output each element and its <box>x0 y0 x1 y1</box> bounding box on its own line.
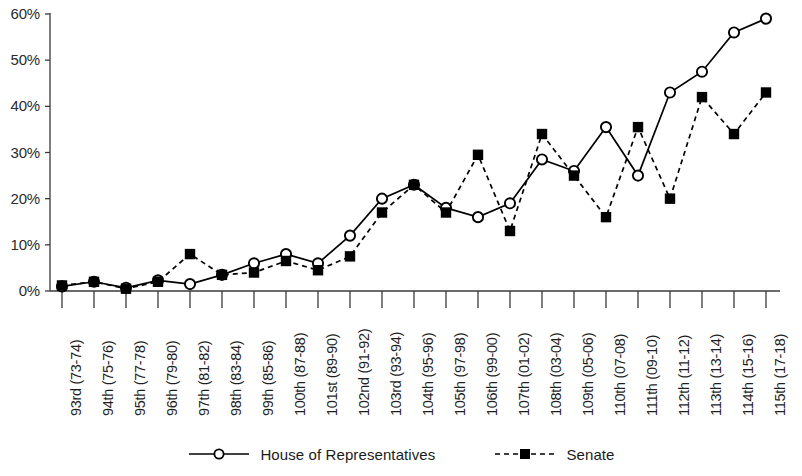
data-point-marker <box>217 270 227 280</box>
data-point-marker <box>601 122 611 132</box>
x-axis-tick-label: 99th (85-86) <box>260 341 276 416</box>
data-point-marker <box>281 256 291 266</box>
y-axis-tick-label: 20% <box>0 191 40 206</box>
x-axis-tick-label: 104th (95-96) <box>420 333 436 416</box>
data-point-marker <box>505 198 515 208</box>
data-point-marker <box>633 122 643 132</box>
y-axis-tick-label: 50% <box>0 52 40 67</box>
data-point-marker <box>249 258 259 268</box>
x-axis-tick-label: 103rd (93-94) <box>388 332 404 416</box>
x-axis-tick-label: 112th (11-12) <box>676 335 692 416</box>
x-axis-tick-label: 108th (03-04) <box>548 333 564 416</box>
data-point-marker <box>665 87 675 97</box>
data-point-marker <box>505 226 515 236</box>
legend-item-house: House of Representatives <box>187 446 435 463</box>
x-axis-tick-label: 115th (17-18) <box>772 334 788 416</box>
series-line <box>62 19 766 288</box>
x-axis-tick-label: 114th (15-16) <box>740 334 756 416</box>
data-point-marker <box>185 249 195 259</box>
data-point-marker <box>249 267 259 277</box>
data-point-marker <box>569 170 579 180</box>
data-point-marker <box>345 231 355 241</box>
data-point-marker <box>121 283 131 293</box>
x-axis-tick-label: 93rd (73-74) <box>68 340 84 416</box>
legend-item-senate: Senate <box>493 446 614 463</box>
data-point-marker <box>665 193 675 203</box>
x-axis-ticks <box>62 291 766 308</box>
data-point-marker <box>89 277 99 287</box>
x-axis-tick-label: 110th (07-08) <box>612 334 628 416</box>
y-axis-tick-label: 60% <box>0 6 40 21</box>
open-circle-solid-line-icon <box>187 446 251 462</box>
series-house <box>57 14 771 293</box>
y-axis-tick-label: 10% <box>0 237 40 252</box>
data-point-marker <box>729 129 739 139</box>
data-point-marker <box>473 212 483 222</box>
data-point-marker <box>537 154 547 164</box>
data-point-marker <box>537 129 547 139</box>
x-axis-tick-label: 98th (83-84) <box>228 341 244 416</box>
data-point-marker <box>601 212 611 222</box>
data-point-marker <box>697 67 707 77</box>
x-axis-tick-label: 111th (09-10) <box>644 335 660 416</box>
data-point-marker <box>185 279 195 289</box>
x-axis-tick-label: 107th (01-02) <box>516 333 532 416</box>
x-axis-tick-label: 106th (99-00) <box>484 333 500 416</box>
data-point-marker <box>761 14 771 24</box>
y-axis-tick-label: 40% <box>0 98 40 113</box>
x-axis-tick-label: 100th (87-88) <box>292 333 308 416</box>
y-axis-tick-label: 30% <box>0 145 40 160</box>
filled-square-dashed-line-icon <box>493 446 557 462</box>
data-point-marker <box>409 180 419 190</box>
data-point-marker <box>377 207 387 217</box>
y-axis-ticks <box>45 14 50 291</box>
data-point-marker <box>473 150 483 160</box>
chart-legend: House of Representatives Senate <box>0 438 802 470</box>
x-axis-tick-label: 97th (81-82) <box>196 341 212 416</box>
data-point-marker <box>345 251 355 261</box>
data-point-marker <box>441 207 451 217</box>
chart-container: 60%50%40%30%20%10%0% 93rd (73-74)94th (7… <box>0 0 802 476</box>
y-axis-tick-label: 0% <box>0 283 40 298</box>
x-axis-tick-label: 105th (97-98) <box>452 333 468 416</box>
data-point-marker <box>729 27 739 37</box>
chart-axes <box>50 13 780 291</box>
data-point-marker <box>761 87 771 97</box>
x-axis-tick-label: 96th (79-80) <box>164 341 180 416</box>
data-point-marker <box>633 170 643 180</box>
data-point-marker <box>377 194 387 204</box>
x-axis-tick-label: 94th (75-76) <box>100 341 116 416</box>
data-point-marker <box>57 280 67 290</box>
data-point-marker <box>153 277 163 287</box>
x-axis-tick-label: 102nd (91-92) <box>356 329 372 416</box>
x-axis-tick-label: 95th (77-78) <box>132 341 148 416</box>
legend-label-senate: Senate <box>566 446 614 463</box>
legend-label-house: House of Representatives <box>260 446 435 463</box>
x-axis-tick-label: 101st (89-90) <box>324 334 340 416</box>
x-axis-tick-label: 109th (05-06) <box>580 333 596 416</box>
data-point-marker <box>697 92 707 102</box>
data-point-marker <box>313 265 323 275</box>
x-axis-tick-label: 113th (13-14) <box>708 334 724 416</box>
